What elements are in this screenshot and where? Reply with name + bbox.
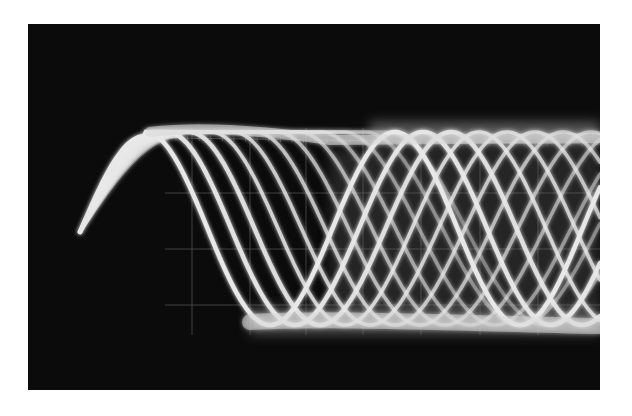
- trace-envelope: [250, 320, 600, 326]
- oscilloscope-screen: [28, 24, 600, 390]
- oscilloscope-photo: [28, 24, 600, 390]
